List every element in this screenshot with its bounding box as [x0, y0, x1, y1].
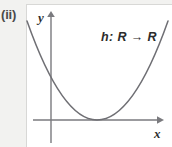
x-axis-arrowhead-icon	[157, 116, 164, 124]
graph-plot: y x h: R → R	[0, 0, 172, 147]
y-axis-arrowhead-icon	[47, 11, 55, 17]
x-axis-label: x	[153, 126, 161, 141]
figure-container: (ii) y x h: R → R	[0, 0, 172, 147]
y-axis-label: y	[36, 10, 44, 25]
function-notation-label: h: R → R	[101, 30, 157, 44]
